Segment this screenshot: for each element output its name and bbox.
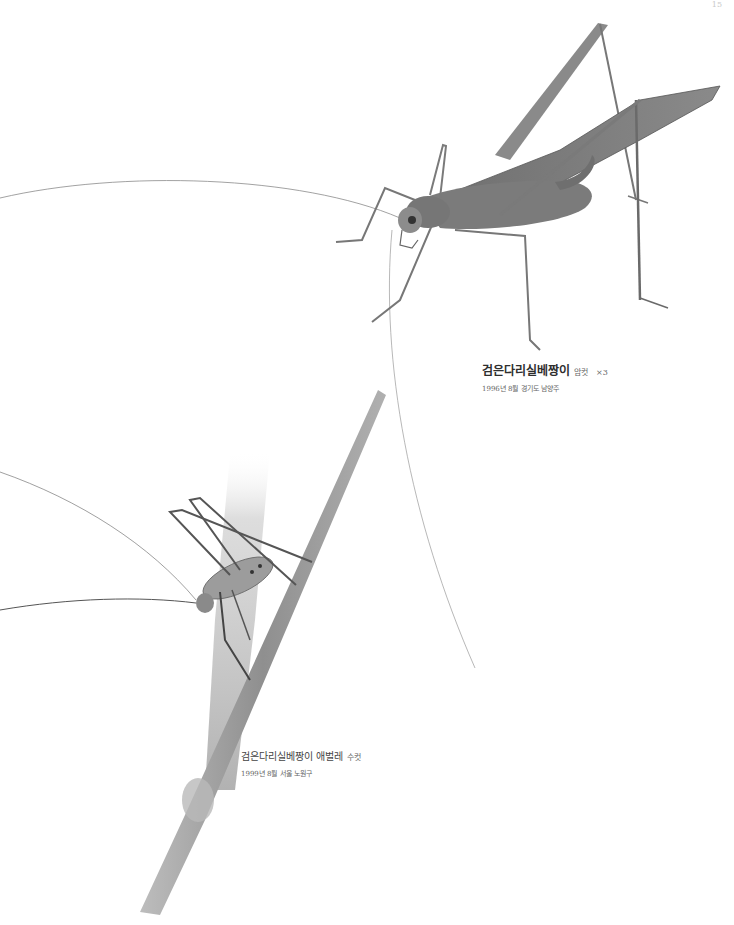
figure-caption-nymph: 검은다리실베짱이 애벌레수컷 1999년 8월 서울 노원구 xyxy=(241,745,361,778)
field-guide-page: 15 xyxy=(0,0,734,925)
sex-label: 수컷 xyxy=(347,753,361,762)
date-location: 1999년 8월 서울 노원구 xyxy=(241,768,361,778)
species-name: 검은다리실베짱이 xyxy=(482,364,570,378)
figure-caption-adult: 검은다리실베짱이암컷×3 1996년 8월 경기도 남양주 xyxy=(482,360,608,393)
species-name: 검은다리실베짱이 애벌레 xyxy=(241,751,343,762)
scale-label: ×3 xyxy=(596,368,608,377)
date-location: 1996년 8월 경기도 남양주 xyxy=(482,383,608,393)
illustrations xyxy=(0,0,734,925)
adult-katydid-illustration xyxy=(0,23,720,668)
nymph-katydid-illustration xyxy=(0,390,386,915)
sex-label: 암컷 xyxy=(574,368,588,377)
